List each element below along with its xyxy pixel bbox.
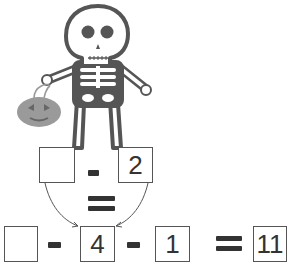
- bottom-equals-sign-bar1: [216, 236, 242, 241]
- bottom-minus-sign-1: [48, 242, 61, 248]
- top-answer-box-left[interactable]: [39, 147, 75, 183]
- skeleton-illustration: [0, 0, 289, 150]
- bottom-number-box-3: 1: [155, 226, 190, 262]
- arrows-to-middle-box: [0, 180, 289, 230]
- bottom-minus-sign-2: [127, 242, 140, 248]
- bottom-result-box: 11: [253, 226, 287, 262]
- top-minus-sign: [88, 170, 99, 176]
- top-number-box-right: 2: [118, 147, 153, 183]
- bottom-number-box-2: 4: [80, 226, 115, 262]
- bottom-equals-sign-bar2: [216, 246, 242, 251]
- bottom-answer-box-1[interactable]: [4, 226, 38, 262]
